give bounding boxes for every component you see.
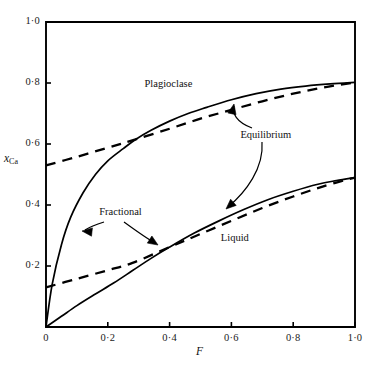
x-tick-label: 1·0 xyxy=(344,332,366,343)
x-tick-label: 0·4 xyxy=(159,332,181,343)
equilibrium-arrow-lower-leader xyxy=(228,142,262,207)
y-tick-label: 0·6 xyxy=(10,137,40,148)
curve-label-liquid: Liquid xyxy=(200,232,270,243)
chart-canvas xyxy=(0,0,369,367)
x-tick-label: 0·2 xyxy=(97,332,119,343)
plot-frame xyxy=(46,22,355,327)
fractional-arrow-left-leader xyxy=(85,222,104,230)
axes-group xyxy=(46,22,355,327)
curve-label-equilibrium: Equilibrium xyxy=(231,129,301,140)
y-tick-label: 0·2 xyxy=(10,259,40,270)
annotation-arrows-group xyxy=(82,104,262,245)
x-axis-title: F xyxy=(196,345,203,357)
x-tick-label: 0 xyxy=(35,332,57,343)
equilibrium-arrow-upper-leader xyxy=(234,106,252,128)
fractional-arrow-left-head xyxy=(82,228,92,236)
curve-label-plagioclase: Plagioclase xyxy=(133,78,203,89)
y-axis-title-subscript: Ca xyxy=(9,157,18,166)
series-line-1 xyxy=(46,82,355,165)
series-line-2 xyxy=(46,178,355,327)
figure-container: 00·20·40·60·81·00·20·40·60·81·0Plagiocla… xyxy=(0,0,369,367)
y-tick-label: 0·8 xyxy=(10,76,40,87)
y-axis-title: xCa xyxy=(4,152,18,166)
y-tick-label: 1·0 xyxy=(10,15,40,26)
x-tick-label: 0·8 xyxy=(282,332,304,343)
tick-marks-group xyxy=(46,22,355,327)
curve-label-fractional: Fractional xyxy=(86,206,156,217)
y-tick-label: 0·4 xyxy=(10,198,40,209)
fractional-arrow-right-head xyxy=(147,236,158,245)
x-tick-label: 0·6 xyxy=(220,332,242,343)
